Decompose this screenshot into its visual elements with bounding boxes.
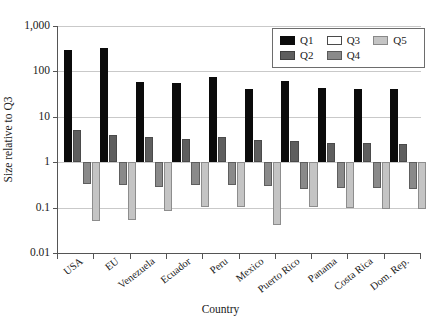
bar-q2-4 bbox=[218, 137, 226, 162]
legend-swatch-q5-icon bbox=[373, 36, 388, 45]
x-tick-mark bbox=[275, 253, 276, 259]
legend-label: Q4 bbox=[347, 50, 360, 61]
gridline bbox=[58, 208, 421, 209]
x-tick-mark bbox=[311, 253, 312, 259]
bar-q1-0 bbox=[64, 50, 72, 162]
legend-swatch-q3-icon bbox=[327, 36, 342, 45]
gridline bbox=[58, 117, 421, 118]
bar-q2-9 bbox=[399, 144, 407, 162]
legend-label: Q3 bbox=[347, 35, 360, 46]
bar-q4-1 bbox=[119, 162, 127, 185]
legend-swatch-q4-icon bbox=[327, 51, 342, 60]
bar-q5-0 bbox=[92, 162, 100, 221]
bar-q5-4 bbox=[237, 162, 245, 206]
bar-q5-9 bbox=[418, 162, 426, 208]
bar-q1-7 bbox=[318, 88, 326, 162]
y-tick-label: 1,000 bbox=[24, 20, 50, 32]
bar-q5-6 bbox=[309, 162, 317, 206]
legend-item-q3[interactable]: Q3 bbox=[327, 35, 372, 46]
bar-q4-0 bbox=[83, 162, 91, 184]
bar-q2-5 bbox=[254, 140, 262, 162]
bar-q2-3 bbox=[182, 139, 190, 162]
legend-item-q5[interactable]: Q5 bbox=[373, 35, 418, 46]
y-tick-mark bbox=[53, 71, 58, 72]
x-tick-mark bbox=[93, 253, 94, 259]
bar-q4-5 bbox=[264, 162, 272, 186]
y-tick-mark bbox=[53, 26, 58, 27]
legend-item-q4[interactable]: Q4 bbox=[327, 50, 372, 61]
y-tick-label: 1 bbox=[44, 156, 50, 168]
legend-item-q2[interactable]: Q2 bbox=[280, 50, 325, 61]
x-tick-label-costa-rica: Costa Rica bbox=[332, 255, 375, 292]
legend-label: Q1 bbox=[300, 35, 313, 46]
y-tick-label: 100 bbox=[33, 66, 50, 78]
x-tick-mark bbox=[166, 253, 167, 259]
bar-q5-8 bbox=[382, 162, 390, 208]
x-tick-label-mexico: Mexico bbox=[234, 255, 266, 283]
x-tick-label-usa: USA bbox=[61, 255, 84, 277]
y-tick-mark bbox=[53, 208, 58, 209]
chart-legend: Q1Q3Q5Q2Q4 bbox=[272, 28, 425, 68]
bar-q1-3 bbox=[172, 83, 180, 162]
x-tick-mark bbox=[57, 253, 58, 259]
x-tick-mark bbox=[239, 253, 240, 259]
bar-q4-8 bbox=[373, 162, 381, 188]
bar-q1-5 bbox=[245, 89, 253, 162]
x-axis-title: Country bbox=[0, 303, 441, 315]
bar-q1-4 bbox=[209, 77, 217, 162]
bar-q2-8 bbox=[363, 143, 371, 162]
bar-q1-2 bbox=[136, 82, 144, 162]
bar-q5-3 bbox=[201, 162, 209, 206]
y-tick-label: 10 bbox=[39, 111, 51, 123]
x-tick-mark bbox=[130, 253, 131, 259]
bar-q2-6 bbox=[290, 141, 298, 162]
bar-q4-7 bbox=[337, 162, 345, 188]
x-tick-label-peru: Peru bbox=[208, 255, 230, 276]
y-tick-mark bbox=[53, 162, 58, 163]
x-tick-label-ecuador: Ecuador bbox=[159, 255, 193, 285]
bar-q5-1 bbox=[128, 162, 136, 220]
legend-item-q1[interactable]: Q1 bbox=[280, 35, 325, 46]
bar-q2-1 bbox=[109, 135, 117, 162]
bar-q2-7 bbox=[327, 143, 335, 163]
bar-q1-8 bbox=[354, 89, 362, 162]
y-tick-label: 0.1 bbox=[36, 202, 50, 214]
x-tick-mark bbox=[384, 253, 385, 259]
log-bar-chart: Size relative to Q3 1,0001001010.10.01 U… bbox=[0, 0, 441, 328]
x-tick-mark bbox=[420, 253, 421, 259]
legend-label: Q5 bbox=[393, 35, 406, 46]
x-tick-label-eu: EU bbox=[103, 255, 121, 272]
gridline bbox=[58, 26, 421, 27]
x-tick-label-panama: Panama bbox=[305, 255, 338, 284]
bar-q2-2 bbox=[145, 137, 153, 162]
bar-q4-4 bbox=[228, 162, 236, 185]
bar-q5-2 bbox=[164, 162, 172, 211]
bar-q4-6 bbox=[300, 162, 308, 189]
bar-q1-9 bbox=[390, 89, 398, 163]
bar-q4-3 bbox=[191, 162, 199, 185]
bar-q1-6 bbox=[281, 81, 289, 162]
bar-q2-0 bbox=[73, 130, 81, 163]
bar-q4-2 bbox=[155, 162, 163, 186]
bar-q4-9 bbox=[409, 162, 417, 189]
x-tick-mark bbox=[202, 253, 203, 259]
bar-q5-7 bbox=[346, 162, 354, 207]
y-axis-title: Size relative to Q3 bbox=[2, 26, 16, 253]
bar-q5-5 bbox=[273, 162, 281, 225]
y-tick-mark bbox=[53, 117, 58, 118]
legend-label: Q2 bbox=[300, 50, 313, 61]
gridline bbox=[58, 71, 421, 72]
legend-swatch-q1-icon bbox=[280, 36, 295, 45]
legend-swatch-q2-icon bbox=[280, 51, 295, 60]
y-tick-label: 0.01 bbox=[30, 247, 50, 259]
x-tick-label-venezuela: Venezuela bbox=[116, 255, 157, 290]
bar-q1-1 bbox=[100, 48, 108, 162]
x-tick-mark bbox=[347, 253, 348, 259]
x-tick-label-dom-rep: Dom. Rep. bbox=[368, 255, 411, 292]
